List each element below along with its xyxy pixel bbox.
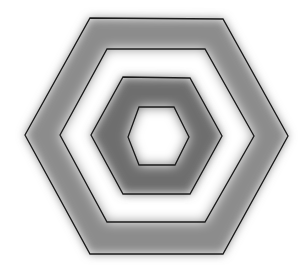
hexagon-svg xyxy=(0,0,307,276)
concentric-hexagons-diagram xyxy=(0,0,307,276)
